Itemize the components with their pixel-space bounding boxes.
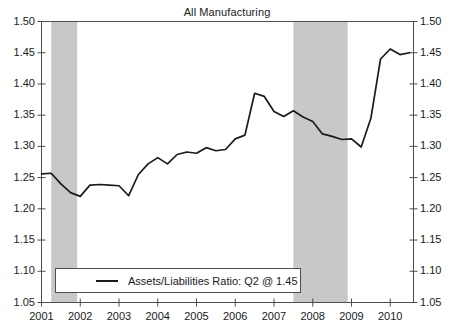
y-axis-tick-label-right: 1.45: [420, 46, 454, 58]
x-axis-tick-label: 2001: [22, 310, 62, 322]
x-axis-tick-label: 2004: [138, 310, 178, 322]
y-axis-tick-label-left: 1.50: [3, 15, 35, 27]
recession-2008-band: [293, 22, 347, 303]
y-axis-tick-label-right: 1.50: [420, 15, 454, 27]
x-axis-tick-label: 2006: [215, 310, 255, 322]
x-axis-tick-label: 2005: [177, 310, 217, 322]
x-axis-tick-label: 2003: [99, 310, 139, 322]
chart-legend: Assets/Liabilities Ratio: Q2 @ 1.45: [55, 268, 301, 293]
y-axis-tick-label-right: 1.30: [420, 139, 454, 151]
chart-container: All Manufacturing 1.051.051.101.101.151.…: [0, 0, 454, 331]
y-axis-tick-label-right: 1.25: [420, 171, 454, 183]
x-axis-tick-label: 2002: [60, 310, 100, 322]
y-axis-tick-label-left: 1.30: [3, 139, 35, 151]
y-axis-tick-label-right: 1.40: [420, 77, 454, 89]
recession-2001-band: [51, 22, 77, 303]
y-axis-tick-label-right: 1.35: [420, 108, 454, 120]
y-axis-tick-label-left: 1.20: [3, 202, 35, 214]
y-axis-tick-label-left: 1.15: [3, 233, 35, 245]
x-axis-tick-label: 2010: [370, 310, 410, 322]
y-axis-tick-label-left: 1.25: [3, 171, 35, 183]
x-axis-tick-label: 2009: [332, 310, 372, 322]
y-axis-tick-label-left: 1.10: [3, 264, 35, 276]
data-line-assets-liabilities-ratio: [42, 49, 410, 196]
y-axis-tick-label-left: 1.45: [3, 46, 35, 58]
x-axis-tick-label: 2007: [254, 310, 294, 322]
y-axis-tick-label-right: 1.20: [420, 202, 454, 214]
legend-line-swatch: [96, 280, 118, 282]
legend-label: Assets/Liabilities Ratio: Q2 @ 1.45: [128, 275, 298, 287]
y-axis-tick-label-right: 1.10: [420, 264, 454, 276]
y-axis-tick-label-right: 1.05: [420, 296, 454, 308]
y-axis-tick-label-left: 1.05: [3, 296, 35, 308]
y-axis-tick-label-left: 1.35: [3, 108, 35, 120]
x-axis-tick-label: 2008: [293, 310, 333, 322]
y-axis-tick-label-left: 1.40: [3, 77, 35, 89]
y-axis-tick-label-right: 1.15: [420, 233, 454, 245]
